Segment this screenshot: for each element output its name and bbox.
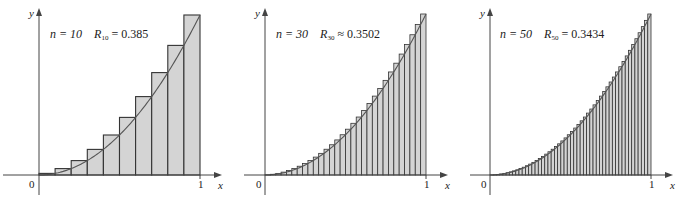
- panel-1-r-sub: 10: [101, 34, 108, 42]
- panel-3-bar: [641, 27, 644, 175]
- panel-3-bar: [571, 131, 574, 175]
- panel-2-bar: [346, 129, 351, 175]
- panel-2-bar: [383, 80, 388, 175]
- panel-2-bar: [410, 35, 415, 175]
- panel-3-y-axis-label: y: [480, 7, 485, 19]
- panel-2-r-sub: 30: [327, 34, 334, 42]
- panel-2-label: n = 30 R30 ≈ 0.3502: [276, 27, 380, 42]
- panel-3-bar: [609, 82, 612, 175]
- panel-2-x-arrow-icon: [440, 172, 448, 178]
- panel-3-bar: [561, 141, 564, 175]
- panel-3-label: n = 50 R50 = 0.3434: [500, 27, 604, 42]
- panel-3-bar: [545, 154, 548, 175]
- panel-3-n: n = 50: [500, 27, 532, 41]
- panel-3-bar: [593, 105, 596, 175]
- panel-2-bar: [351, 123, 356, 175]
- panel-2-x-tick-1: 1: [424, 178, 430, 190]
- panel-2-y-axis-label: y: [255, 7, 260, 19]
- panel-3-bar: [580, 121, 583, 175]
- panel-3-bar: [574, 128, 577, 175]
- panel-2-bar: [367, 103, 372, 175]
- panel-3-x-arrow-icon: [665, 172, 673, 178]
- panel-2-bar: [405, 45, 410, 175]
- panel-2-r-value: 0.3502: [347, 27, 380, 41]
- panel-2-bar: [335, 140, 340, 175]
- panel-3-bar: [558, 144, 561, 175]
- panel-1-bar: [152, 73, 168, 175]
- panel-2-bar: [378, 88, 383, 175]
- panel-1-y-axis-label: y: [29, 7, 34, 19]
- panel-1-relation: =: [111, 27, 118, 41]
- panel-3-y-arrow-icon: [487, 8, 493, 16]
- panel-3-bar: [538, 159, 541, 175]
- panel-3-bar: [564, 138, 567, 175]
- panel-2-bar: [415, 25, 420, 175]
- panel-3-bar: [619, 67, 622, 175]
- panel-1-label: n = 10 R10 = 0.385: [50, 27, 148, 42]
- panel-3-x-tick-0: 0: [481, 178, 487, 190]
- panel-3-bar: [612, 77, 615, 175]
- panel-2-bar: [421, 14, 426, 175]
- panel-2-bar: [399, 54, 404, 175]
- panel-3-bar: [603, 92, 606, 175]
- panel-3-bar: [583, 117, 586, 175]
- panel-1-x-tick-1: 1: [198, 178, 204, 190]
- panel-2-x-axis-label: x: [445, 179, 450, 191]
- panel-3-r-value: 0.3434: [571, 27, 604, 41]
- panel-1-y-arrow-icon: [36, 8, 42, 16]
- panel-3-bar: [596, 101, 599, 175]
- panel-3-x-axis-label: x: [670, 179, 675, 191]
- panel-3-bar: [599, 96, 602, 175]
- panel-3-bar: [542, 156, 545, 175]
- panel-2-bar: [340, 135, 345, 175]
- panel-3-bar: [632, 45, 635, 175]
- panel-3-bar: [622, 61, 625, 175]
- panel-3-bar: [587, 113, 590, 175]
- panel-3-bar: [548, 152, 551, 175]
- panel-3-bar: [590, 109, 593, 175]
- panel-1-bar: [136, 97, 152, 175]
- panel-3-bar: [616, 72, 619, 175]
- panel-3-bar: [648, 14, 651, 175]
- panel-3-bar: [554, 147, 557, 175]
- panel-2-bar: [356, 117, 361, 175]
- panel-3-bar: [567, 135, 570, 175]
- panel-3-bar: [551, 149, 554, 175]
- panel-3-x-tick-1: 1: [649, 178, 655, 190]
- panel-1-bar: [168, 45, 184, 175]
- panel-3-bar: [577, 125, 580, 175]
- panel-2-n: n = 30: [276, 27, 308, 41]
- panel-1-x-tick-0: 0: [29, 178, 35, 190]
- panel-2-y-arrow-icon: [262, 8, 268, 16]
- panel-2-bar: [394, 63, 399, 175]
- panel-3-r-sub: 50: [551, 34, 558, 42]
- panel-3-bar: [645, 20, 648, 175]
- panel-2-relation: ≈: [337, 27, 344, 41]
- panel-1-bar: [103, 135, 119, 175]
- panel-3-bar: [625, 56, 628, 175]
- panel-2-bar: [372, 96, 377, 175]
- panel-3-bar: [638, 33, 641, 175]
- panel-2-bar: [388, 72, 393, 175]
- panel-1-x-axis-label: x: [218, 179, 223, 191]
- panel-1-bar: [87, 149, 103, 175]
- panel-2-bar: [362, 110, 367, 175]
- panel-1-n: n = 10: [50, 27, 82, 41]
- panel-2-bar: [329, 145, 334, 175]
- panel-3-bar: [606, 87, 609, 175]
- panel-3-relation: =: [561, 27, 568, 41]
- panel-1-bar: [184, 15, 200, 175]
- panel-2-x-tick-0: 0: [256, 178, 262, 190]
- panel-1-r-value: 0.385: [121, 27, 148, 41]
- panel-3-bar: [635, 39, 638, 175]
- panel-3-bar: [628, 50, 631, 175]
- panel-1-x-arrow-icon: [214, 172, 222, 178]
